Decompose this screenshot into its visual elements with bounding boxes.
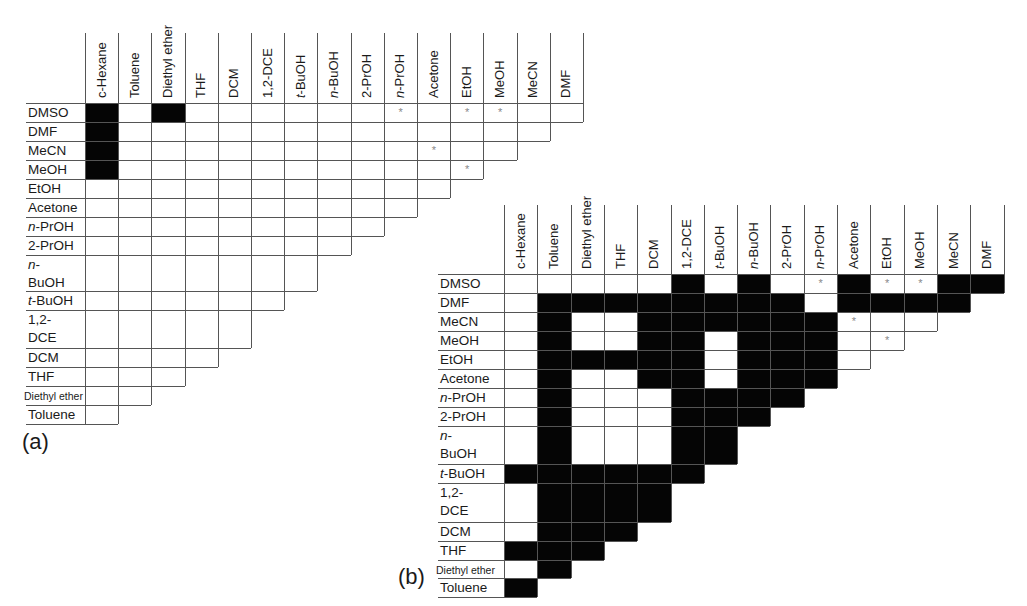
solvent-miscibility-figure: *****DMSODMFMeCNMeOHEtOHAcetonen-PrOH2-P… [0, 0, 1027, 606]
matrix-cell [671, 369, 705, 388]
matrix-cell [384, 198, 418, 217]
grid-line [185, 33, 186, 386]
matrix-cell [704, 274, 738, 293]
matrix-cell [837, 293, 871, 312]
matrix-cell [118, 386, 152, 405]
matrix-cell [450, 122, 484, 141]
matrix-cell [637, 274, 671, 293]
matrix-cell [351, 160, 385, 179]
matrix-cell [604, 483, 638, 522]
matrix-cell [504, 560, 538, 578]
matrix-cell [151, 141, 185, 160]
matrix-cell [504, 369, 538, 388]
matrix-cell [671, 312, 705, 331]
matrix-cell [251, 103, 285, 122]
matrix-cell [151, 160, 185, 179]
matrix-cell [317, 103, 351, 122]
row-label: n-BuOH [28, 256, 65, 292]
matrix-cell [671, 464, 705, 483]
matrix-cell: * [450, 103, 484, 122]
row-label: 2-PrOH [440, 408, 486, 426]
grid-line [837, 205, 838, 388]
matrix-cell [185, 160, 219, 179]
matrix-cell [317, 198, 351, 217]
matrix-cell [550, 103, 584, 122]
matrix-cell [185, 217, 219, 236]
column-label: Acetone [427, 50, 441, 98]
row-label: Diethyl ether [436, 561, 495, 579]
matrix-cell [85, 310, 119, 348]
matrix-cell [770, 274, 804, 293]
matrix-cell [85, 179, 119, 198]
matrix-cell [704, 312, 738, 331]
row-label: DMF [28, 123, 57, 141]
matrix-cell [671, 274, 705, 293]
matrix-cell [571, 312, 605, 331]
column-label: EtOH [880, 237, 894, 269]
matrix-cell [351, 198, 385, 217]
column-label: 1,2-DCE [261, 48, 275, 98]
row-label: EtOH [28, 180, 61, 198]
matrix-cell [571, 522, 605, 541]
grid-line [737, 205, 738, 464]
grid-line [384, 33, 385, 236]
grid-line [26, 103, 583, 104]
matrix-cell [504, 331, 538, 350]
matrix-cell [118, 291, 152, 310]
matrix-cell [537, 312, 571, 331]
matrix-cell [937, 293, 971, 312]
matrix-cell [704, 350, 738, 369]
matrix-cell [218, 103, 252, 122]
matrix-cell [904, 293, 938, 312]
row-label: n-PrOH [28, 218, 74, 236]
row-label: DMSO [28, 104, 69, 122]
matrix-cell [737, 407, 771, 426]
matrix-cell [85, 348, 119, 367]
matrix-cell [118, 310, 152, 348]
matrix-cell [504, 464, 538, 483]
matrix-cell [218, 291, 252, 310]
matrix-cell [704, 293, 738, 312]
matrix-cell [483, 141, 517, 160]
matrix-cell [151, 236, 185, 255]
grid-line [26, 236, 384, 237]
matrix-cell [637, 293, 671, 312]
grid-line [770, 205, 771, 426]
row-label: n-PrOH [440, 389, 486, 407]
matrix-cell [804, 350, 838, 369]
matrix-cell [251, 217, 285, 236]
grid-line [351, 33, 352, 255]
matrix-cell [571, 541, 605, 560]
grid-line [937, 205, 938, 331]
column-label: MeOH [913, 231, 927, 269]
matrix-cell [671, 426, 705, 464]
grid-line [26, 291, 317, 292]
matrix-cell: * [417, 141, 451, 160]
matrix-cell [185, 122, 219, 141]
column-label: THF [614, 244, 628, 269]
matrix-cell [770, 331, 804, 350]
grid-line [26, 198, 450, 199]
matrix-cell [118, 122, 152, 141]
matrix-cell [571, 426, 605, 464]
column-label: n-PrOH [393, 54, 407, 98]
matrix-cell [151, 179, 185, 198]
grid-line [218, 33, 219, 367]
row-label: 2-PrOH [28, 237, 74, 255]
row-label: MeOH [28, 161, 67, 179]
column-label: n-PrOH [813, 225, 827, 269]
matrix-cell [85, 198, 119, 217]
matrix-cell: * [483, 103, 517, 122]
matrix-cell [251, 122, 285, 141]
matrix-cell [85, 103, 119, 122]
matrix-cell [571, 350, 605, 369]
row-label: Acetone [440, 370, 490, 388]
matrix-cell [604, 293, 638, 312]
matrix-cell [671, 388, 705, 407]
matrix-cell [151, 217, 185, 236]
matrix-cell [284, 103, 318, 122]
column-label: n-BuOH [327, 51, 341, 98]
matrix-cell [870, 293, 904, 312]
matrix-cell [483, 122, 517, 141]
matrix-cell [537, 522, 571, 541]
